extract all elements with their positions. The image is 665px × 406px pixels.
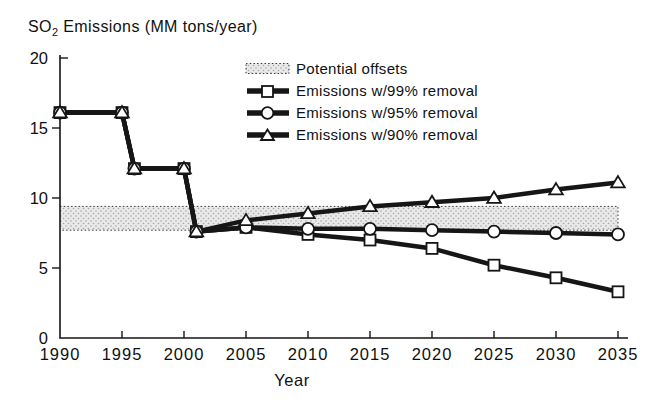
chart-title-suffix: Emissions (MM tons/year) (58, 18, 257, 35)
legend-item-95-removal: Emissions w/95% removal (245, 103, 478, 122)
legend-item-potential-offsets: Potential offsets (245, 59, 478, 78)
x-tick-label: 2030 (536, 345, 577, 363)
square-marker-line-icon (245, 83, 291, 99)
legend-label-potential-offsets: Potential offsets (296, 60, 408, 77)
x-tick-label: 2020 (412, 345, 453, 363)
x-axis-title: Year (274, 371, 309, 389)
chart-title: SO2 Emissions (MM tons/year) (28, 18, 258, 36)
x-tick-label: 2025 (474, 345, 515, 363)
x-tick-label: 2005 (226, 345, 267, 363)
legend-label-99-removal: Emissions w/99% removal (296, 82, 478, 99)
y-tick-label: 10 (30, 189, 48, 207)
legend: Potential offsets Emissions w/99% remova… (245, 59, 478, 147)
x-tick-label: 2035 (598, 345, 639, 363)
legend-item-99-removal: Emissions w/99% removal (245, 81, 478, 100)
x-tick-label: 2000 (164, 345, 205, 363)
legend-label-90-removal: Emissions w/90% removal (296, 126, 478, 143)
y-tick-label: 20 (30, 49, 48, 67)
x-tick-label: 2010 (288, 345, 329, 363)
x-tick-label: 1995 (102, 345, 143, 363)
chart-title-prefix: SO (28, 18, 52, 35)
legend-item-90-removal: Emissions w/90% removal (245, 125, 478, 144)
x-axis-ticks: 1990199520002005201020152020202520302035 (40, 331, 639, 363)
y-tick-label: 5 (39, 259, 48, 277)
circle-marker-line-icon (245, 105, 291, 121)
chart-figure: 0510152019901995200020052010201520202025… (0, 0, 665, 406)
x-tick-label: 2015 (350, 345, 391, 363)
y-tick-label: 0 (39, 329, 48, 347)
triangle-marker-line-icon (245, 127, 291, 143)
legend-label-95-removal: Emissions w/95% removal (296, 104, 478, 121)
band-swatch-icon (245, 62, 291, 75)
y-axis-ticks: 05101520 (30, 49, 68, 347)
y-tick-label: 15 (30, 119, 48, 137)
x-tick-label: 1990 (40, 345, 81, 363)
